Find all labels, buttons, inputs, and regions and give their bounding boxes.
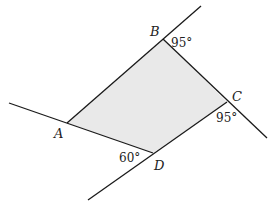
angle-label-d: 60° [119,151,140,165]
vertex-label-c: C [232,89,242,104]
vertex-label-b: B [149,24,160,39]
shaded-quadrilateral [67,39,227,153]
angle-label-c: 95° [216,111,237,125]
vertex-label-a: A [53,126,63,141]
angle-label-b: 95° [171,36,192,50]
quadrilateral-diagram: A B C D 95° 95° 60° [0,0,271,204]
vertex-label-d: D [153,158,165,173]
